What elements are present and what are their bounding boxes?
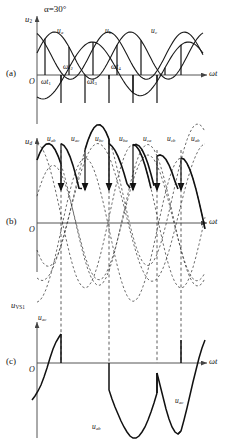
panel-tag-c: (c) bbox=[6, 356, 16, 366]
panel-a-origin: O bbox=[29, 77, 35, 86]
time-mark-wt1: ωt1 bbox=[41, 77, 51, 86]
signal-label-ua: ua bbox=[57, 26, 63, 35]
firing-angle-title: α=30° bbox=[44, 4, 66, 14]
panel-b-x-axis-label: ωt bbox=[209, 216, 217, 226]
segment-label-uba: uba bbox=[119, 134, 128, 143]
vs1-label-uac-1: uac bbox=[38, 313, 46, 322]
segment-label-uab-1: uab bbox=[47, 134, 56, 143]
panel-b-graph bbox=[37, 124, 207, 363]
panel-a-y-axis-label: u2 bbox=[25, 14, 32, 24]
segment-label-uca: uca bbox=[143, 134, 151, 143]
signal-label-uc: uc bbox=[151, 26, 157, 35]
segment-label-uab-2: uab bbox=[191, 134, 200, 143]
time-mark-wt4: ωt4 bbox=[111, 62, 121, 71]
panel-b-origin: O bbox=[29, 225, 35, 234]
figure-three-phase-rectifier-waveforms: α=30° (a) u2 ωt O ua ub uc ωt1 ωt2 ωt3 ω… bbox=[0, 0, 239, 448]
panel-c-graph bbox=[32, 322, 207, 438]
panel-c-origin: O bbox=[29, 365, 35, 374]
segment-label-ucb: ucb bbox=[167, 134, 175, 143]
panel-a-x-axis-label: ωt bbox=[209, 68, 217, 78]
panel-c-x-axis-label: ωt bbox=[209, 356, 217, 366]
vs1-label-uac-2: uac bbox=[175, 396, 183, 405]
panel-c-y-axis-label: uVS1 bbox=[11, 300, 25, 310]
time-mark-wt3: ωt3 bbox=[87, 77, 97, 86]
signal-label-ub: ub bbox=[105, 26, 111, 35]
panel-b-y-axis-label: ud bbox=[25, 136, 32, 146]
vs1-label-uab: uab bbox=[92, 422, 101, 431]
panel-tag-a: (a) bbox=[6, 68, 16, 78]
time-mark-wt2: ωt2 bbox=[63, 62, 73, 71]
segment-label-uac: uac bbox=[71, 134, 79, 143]
segment-label-ubc: ubc bbox=[95, 134, 103, 143]
panel-tag-b: (b) bbox=[6, 216, 17, 226]
